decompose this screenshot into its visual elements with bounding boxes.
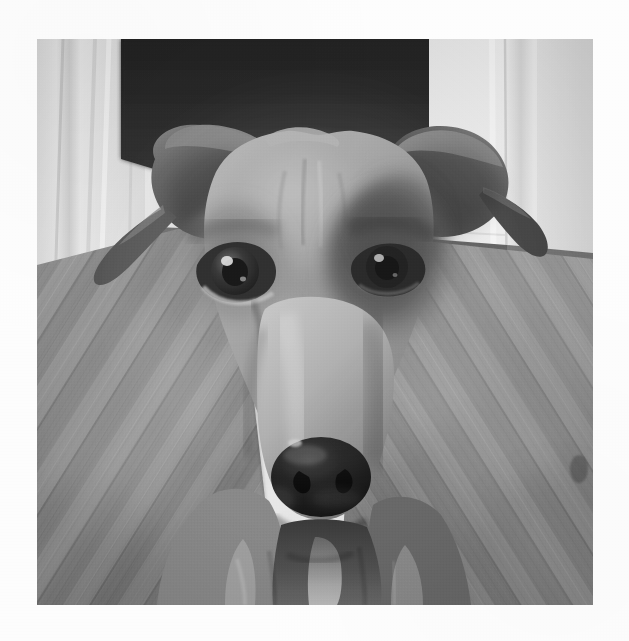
photo-caption — [0, 0, 1, 1]
photo-page — [0, 0, 629, 641]
dog-portrait-photo[interactable] — [37, 39, 593, 605]
dog-portrait-artwork — [37, 39, 593, 605]
